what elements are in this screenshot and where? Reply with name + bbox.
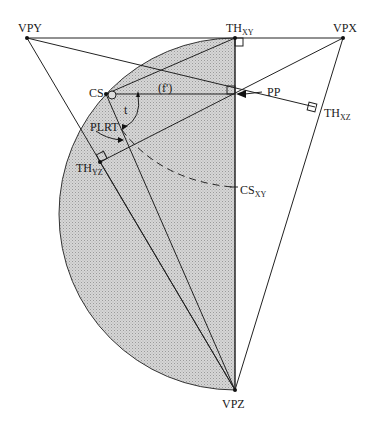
label-f: (f') — [158, 81, 172, 95]
shaded-half-disk — [59, 38, 235, 390]
perspective-diagram: VPY VPX VPZ THXY THXZ THYZ CS PP (f') t … — [0, 0, 376, 429]
right-angle-marker-thxz — [307, 102, 317, 112]
point-thyz — [98, 160, 102, 164]
label-vpx: VPX — [333, 21, 357, 35]
label-plrt: PLRT — [90, 120, 119, 134]
label-vpy: VPY — [18, 21, 42, 35]
label-thxz: THXZ — [324, 106, 351, 122]
point-thxy — [233, 36, 237, 40]
pp-arrowhead-icon — [236, 90, 246, 98]
point-cs — [104, 92, 108, 96]
line-vpx-vpz — [235, 38, 343, 390]
label-cs: CS — [89, 86, 104, 100]
label-thxy: THXY — [226, 21, 254, 37]
label-pp: PP — [267, 85, 281, 99]
point-vpx — [341, 36, 345, 40]
point-vpz — [233, 388, 237, 392]
label-cs-xy: CSXY — [240, 183, 266, 199]
cs-circle-marker — [108, 91, 116, 99]
point-vpy — [25, 36, 29, 40]
label-vpz: VPZ — [222, 397, 245, 411]
